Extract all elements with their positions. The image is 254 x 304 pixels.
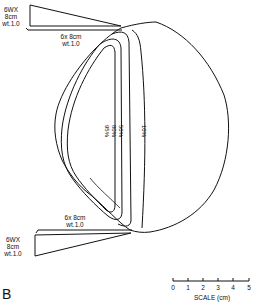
scale-tick-0: 0 [169,284,177,291]
bottom-wedge-label-line1: 6WX [2,236,24,243]
scale-tick-2: 2 [199,284,207,291]
scale-tick-4: 4 [229,284,237,291]
top-wedge-label-line2: 8cm [0,13,22,20]
dose-distribution-diagram [0,0,254,304]
scale-tick-5: 5 [245,284,253,291]
bottom-wedge-label: 6WX 8cm wt.1.0 [2,236,24,257]
scale-tick-3: 3 [214,284,222,291]
top-wedge-label: 6WX 8cm wt.1.0 [0,6,22,27]
bottom-wedge-label-line3: wt.1.0 [2,250,24,257]
scale-title: SCALE (cm) [194,294,230,301]
scale-bar [173,278,249,281]
bottom-field-label: 6x 8cm wt.1.0 [55,214,95,228]
scale-tick-1: 1 [184,284,192,291]
isodose-label-50: 50% [118,125,124,137]
top-wedge-shape [30,5,121,26]
top-field-label-line2: wt.1.0 [51,40,91,47]
top-wedge-label-line3: wt.1.0 [0,20,22,27]
top-field-label: 6x 8cm wt.1.0 [51,33,91,47]
bottom-field-bracket [36,230,132,233]
top-field-label-line1: 6x 8cm [51,33,91,40]
bottom-field-label-line2: wt.1.0 [55,221,95,228]
isodose-label-80: 80% [111,125,117,137]
top-wedge-label-line1: 6WX [0,6,22,13]
top-field-bracket [26,28,122,30]
bottom-wedge-shape [35,233,131,256]
isodose-label-95: 95% [104,125,110,137]
bottom-field-label-line1: 6x 8cm [55,214,95,221]
isodose-label-10: 10% [141,125,147,137]
bottom-wedge-label-line2: 8cm [2,243,24,250]
panel-label: B [2,286,11,302]
